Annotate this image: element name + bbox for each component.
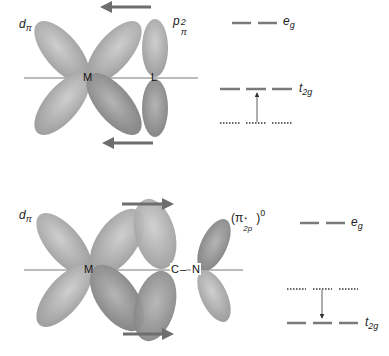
top-panel-orbitals	[24, 7, 198, 144]
atom-m-top: M	[83, 71, 92, 83]
atom-m-bottom: M	[84, 263, 93, 275]
bond-dash: –	[180, 263, 186, 275]
bottom-panel-orbitals	[24, 194, 243, 346]
top-p-pi-label: p2π	[173, 14, 188, 28]
top-d-pi-label: dπ	[19, 17, 32, 33]
bottom-energy-diagram	[287, 223, 358, 323]
bottom-d-pi-label: dπ	[19, 208, 32, 224]
bottom-pi-star-label: (π*2p)0	[231, 208, 265, 225]
diagram-canvas	[0, 0, 389, 356]
top-t2g-label: t2g	[299, 81, 312, 97]
top-eg-label: eg	[283, 14, 295, 30]
atom-l-top: L	[151, 71, 157, 83]
atom-c: C	[170, 263, 180, 275]
atom-n: N	[191, 263, 201, 275]
top-energy-diagram	[220, 23, 292, 123]
bottom-t2g-label: t2g	[365, 315, 378, 331]
bottom-eg-label: eg	[351, 215, 363, 231]
